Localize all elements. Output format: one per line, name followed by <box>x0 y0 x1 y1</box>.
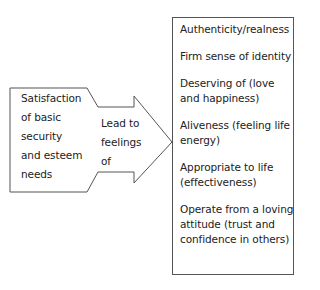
arrow-line: Lead to <box>101 114 161 133</box>
needs-line: Satisfaction <box>21 89 101 108</box>
needs-line: needs <box>21 165 101 184</box>
needs-line: of basic <box>21 108 101 127</box>
feelings-list: Authenticity/realness Firm sense of iden… <box>180 18 294 259</box>
arrow-line: feelings <box>101 133 161 152</box>
feeling-item: Appropriate to life (effectiveness) <box>180 160 294 190</box>
needs-label: Satisfaction of basic security and estee… <box>21 89 101 184</box>
needs-line: and esteem <box>21 146 101 165</box>
feeling-item: Aliveness (feeling life energy) <box>180 118 294 148</box>
feeling-item: Authenticity/realness <box>180 22 294 37</box>
needs-line: security <box>21 127 101 146</box>
feeling-item: Operate from a loving attitude (trust an… <box>180 202 294 247</box>
arrow-line: of <box>101 152 161 171</box>
feeling-item: Firm sense of identity <box>180 49 294 64</box>
arrow-label: Lead to feelings of <box>101 114 161 171</box>
feeling-item: Deserving of (love and happiness) <box>180 76 294 106</box>
